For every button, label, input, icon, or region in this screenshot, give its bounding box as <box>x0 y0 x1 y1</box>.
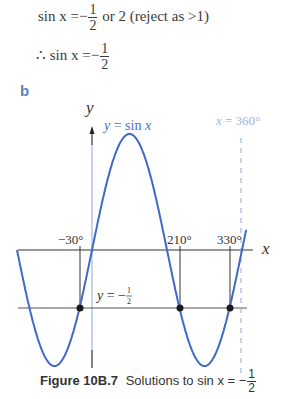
svg-text:1: 1 <box>127 286 131 295</box>
solution-dot-m30 <box>77 305 84 312</box>
sine-graph: y y = sin x x = 360° x −30° 210° 330° y … <box>0 0 306 399</box>
figure-caption: Figure 10B.7 Solutions to sin x = −12 <box>40 368 257 395</box>
y-axis-label: y <box>84 98 94 117</box>
hline-label: y = − 1 2 <box>95 286 132 306</box>
tick-label-330: 330° <box>217 232 242 247</box>
x-axis-label: x <box>261 239 270 258</box>
numerator: 1 <box>247 368 256 382</box>
denominator: 2 <box>247 382 256 395</box>
svg-text:2: 2 <box>127 297 131 306</box>
solution-dot-330 <box>227 305 234 312</box>
svg-text:y = −: y = − <box>95 288 126 303</box>
tick-label-210: 210° <box>167 232 192 247</box>
tick-label-m30: −30° <box>58 232 84 247</box>
figure-label: Figure 10B.7 <box>40 373 118 388</box>
caption-fraction: 12 <box>247 368 256 395</box>
curve-label: y = sin x <box>102 118 152 133</box>
y-axis-arrow-icon <box>90 126 95 134</box>
dashed-line-label: x = 360° <box>215 113 260 128</box>
caption-text: Solutions to sin x = − <box>126 373 247 388</box>
solution-dot-210 <box>177 305 184 312</box>
